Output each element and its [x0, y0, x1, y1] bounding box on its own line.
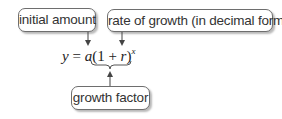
- growth-factor-label: growth factor: [71, 86, 150, 110]
- equation-equals: =: [69, 48, 85, 64]
- initial-amount-label: initial amount: [18, 8, 96, 32]
- equation-open: (1 +: [92, 48, 120, 64]
- equation-exponent: x: [131, 46, 135, 56]
- exponential-growth-equation: y = a(1 + r)x: [62, 42, 135, 65]
- rate-of-growth-label: rate of growth (in decimal form): [107, 9, 273, 32]
- arrow-up-icon: [107, 71, 113, 86]
- equation-y: y: [62, 48, 69, 64]
